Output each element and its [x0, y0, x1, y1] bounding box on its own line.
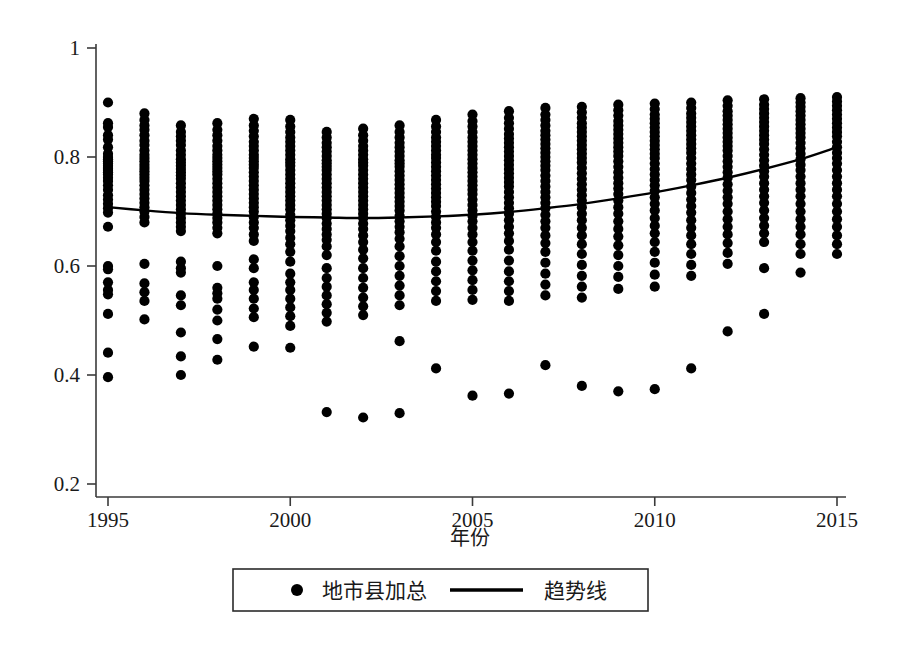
- scatter-point: [613, 284, 623, 294]
- scatter-point: [285, 257, 295, 267]
- scatter-point: [613, 250, 623, 260]
- scatter-point: [504, 296, 514, 306]
- scatter-point: [504, 276, 514, 286]
- scatter-point: [395, 408, 405, 418]
- scatter-point: [723, 229, 733, 239]
- scatter-point: [723, 248, 733, 258]
- scatter-point: [650, 384, 660, 394]
- chart-legend: 地市县加总 趋势线: [233, 569, 648, 611]
- scatter-point: [759, 228, 769, 238]
- scatter-point: [613, 272, 623, 282]
- x-tick-label: 2010: [634, 508, 676, 532]
- scatter-point: [176, 267, 186, 277]
- scatter-point: [103, 222, 113, 232]
- scatter-point: [139, 296, 149, 306]
- scatter-point: [467, 285, 477, 295]
- scatter-point: [650, 258, 660, 268]
- scatter-point: [467, 391, 477, 401]
- scatter-point: [467, 237, 477, 247]
- scatter-point: [176, 370, 186, 380]
- scatter-point: [577, 260, 587, 270]
- scatter-point: [139, 278, 149, 288]
- scatter-point: [285, 321, 295, 331]
- scatter-point: [540, 269, 550, 279]
- scatter-point: [540, 247, 550, 257]
- scatter-point: [322, 407, 332, 417]
- scatter-point: [249, 263, 259, 273]
- scatter-point: [540, 238, 550, 248]
- scatter-point: [467, 255, 477, 265]
- scatter-point: [467, 265, 477, 275]
- scatter-point: [358, 412, 368, 422]
- scatter-point: [285, 294, 295, 304]
- scatter-point: [795, 229, 805, 239]
- scatter-point: [832, 239, 842, 249]
- scatter-point: [723, 238, 733, 248]
- scatter-point: [103, 97, 113, 107]
- scatter-point: [322, 263, 332, 273]
- scatter-point: [103, 309, 113, 319]
- scatter-point: [577, 239, 587, 249]
- scatter-point: [650, 228, 660, 238]
- scatter-point: [795, 249, 805, 259]
- scatter-point: [431, 296, 441, 306]
- y-tick-label: 0.2: [54, 472, 80, 496]
- scatter-point: [504, 255, 514, 265]
- scatter-point: [832, 249, 842, 259]
- scatter-point: [358, 245, 368, 255]
- scatter-point: [322, 241, 332, 251]
- scatter-point: [139, 287, 149, 297]
- scatter-point: [212, 294, 222, 304]
- scatter-point: [139, 217, 149, 227]
- scatter-point: [613, 386, 623, 396]
- scatter-point: [467, 275, 477, 285]
- scatter-point: [431, 276, 441, 286]
- scatter-point: [431, 237, 441, 247]
- scatter-point: [832, 230, 842, 240]
- scatter-point: [540, 360, 550, 370]
- scatter-point: [249, 285, 259, 295]
- scatter-point: [650, 237, 660, 247]
- scatter-point: [176, 290, 186, 300]
- scatter-point: [358, 263, 368, 273]
- scatter-point: [540, 258, 550, 268]
- scatter-point: [103, 264, 113, 274]
- legend-marker-dot-icon: [291, 584, 303, 596]
- scatter-chart-figure: 0.20.40.60.81 19952000200520102015 年份 地市…: [0, 0, 901, 651]
- scatter-point: [395, 261, 405, 271]
- scatter-point: [723, 259, 733, 269]
- y-tick-label: 1: [70, 36, 81, 60]
- scatter-point: [285, 247, 295, 257]
- scatter-point: [358, 283, 368, 293]
- scatter-point: [577, 230, 587, 240]
- scatter-point: [212, 355, 222, 365]
- scatter-point: [358, 293, 368, 303]
- scatter-point: [395, 336, 405, 346]
- scatter-point: [212, 334, 222, 344]
- scatter-point: [431, 286, 441, 296]
- scatter-point: [139, 259, 149, 269]
- scatter-point: [285, 343, 295, 353]
- scatter-point: [467, 295, 477, 305]
- scatter-point: [504, 266, 514, 276]
- scatter-point: [358, 273, 368, 283]
- scatter-point: [249, 254, 259, 264]
- legend-label-trend: 趋势线: [544, 579, 607, 603]
- scatter-point: [322, 273, 332, 283]
- scatter-point: [650, 270, 660, 280]
- scatter-point: [212, 305, 222, 315]
- y-tick-label: 0.6: [54, 254, 80, 278]
- scatter-point: [686, 260, 696, 270]
- scatter-point: [322, 250, 332, 260]
- scatter-point: [322, 316, 332, 326]
- scatter-point: [759, 237, 769, 247]
- scatter-point: [212, 315, 222, 325]
- x-axis-title: 年份: [450, 527, 490, 549]
- scatter-point: [176, 300, 186, 310]
- scatter-point: [759, 309, 769, 319]
- scatter-point: [249, 312, 259, 322]
- scatter-point: [395, 271, 405, 281]
- scatter-point: [212, 261, 222, 271]
- scatter-point: [322, 308, 332, 318]
- scatter-point: [285, 302, 295, 312]
